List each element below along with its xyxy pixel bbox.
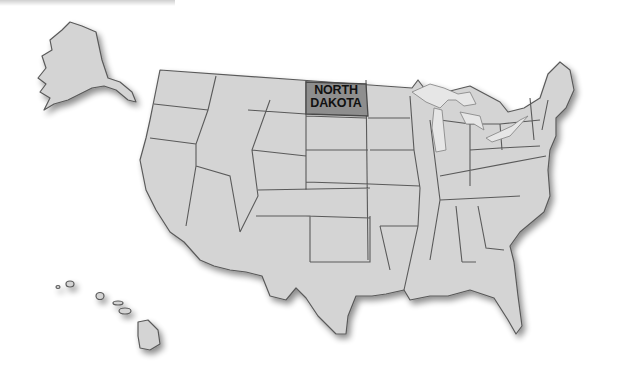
north-dakota-label: NORTH DAKOTA — [300, 84, 372, 109]
hawaii — [56, 281, 160, 350]
us-map — [0, 0, 620, 381]
label-line-2: DAKOTA — [300, 97, 372, 110]
alaska — [38, 22, 136, 110]
label-line-1: NORTH — [300, 84, 372, 97]
